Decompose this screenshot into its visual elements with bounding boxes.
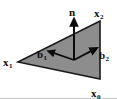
triangle-facet [18,21,100,79]
vertex-label-x2-subscript: 2 [100,13,104,21]
vertex-label-x1-subscript: 1 [9,62,13,70]
vector-label-b2: b2 [99,46,109,63]
vertex-label-x0: x0 [91,84,100,99]
vector-label-b2-base: b [99,49,105,61]
vector-label-b1-base: b [37,48,43,60]
vertex-label-x0-base: x [91,87,97,99]
vector-label-b2-subscript: 2 [106,55,110,63]
vertex-label-x2-base: x [94,7,100,19]
vector-label-n-base: n [69,6,75,18]
vector-label-n: n [69,3,76,20]
vector-label-b1: b1 [37,45,47,62]
vertex-label-x0-subscript: 0 [97,93,101,99]
vector-label-b1-subscript: 1 [44,54,48,62]
geometry-diagram-figure: x1 x2 x0 n b1 b2 [0,0,117,99]
vertex-label-x1: x1 [3,53,12,70]
vertex-label-x1-base: x [3,56,9,68]
vertex-label-x2: x2 [94,4,103,21]
